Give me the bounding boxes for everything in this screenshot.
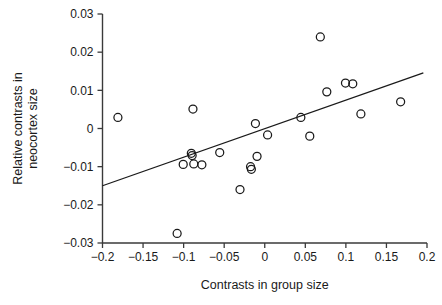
y-tick-label: 0.01: [70, 84, 94, 98]
data-point-marker: [264, 131, 272, 139]
y-tick-label: −0.02: [63, 198, 94, 212]
x-tick-label: −0.05: [209, 250, 240, 264]
data-point-marker: [216, 149, 224, 157]
regression-line: [103, 73, 424, 186]
chart-canvas: 0.030.020.010−0.01−0.02−0.03−0.2−0.15−0.…: [0, 0, 442, 305]
y-tick-label: 0: [87, 122, 94, 136]
data-point-marker: [357, 110, 365, 118]
y-tick-label: −0.01: [63, 160, 94, 174]
x-tick-label: −0.2: [91, 250, 115, 264]
x-tick-label: 0.1: [338, 250, 355, 264]
data-point-marker: [397, 98, 405, 106]
y-tick-label: −0.03: [63, 236, 94, 250]
y-axis-title-line-2: neocortex size: [26, 88, 40, 169]
x-tick-label: 0.2: [419, 250, 436, 264]
data-point-marker: [198, 161, 206, 169]
data-point-marker: [179, 160, 187, 168]
y-tick-label: 0.03: [70, 7, 94, 21]
x-axis-title: Contrasts in group size: [201, 278, 329, 292]
x-tick-label: 0: [261, 250, 268, 264]
data-point-marker: [316, 33, 324, 41]
data-point-marker: [306, 132, 314, 140]
x-tick-label: 0.05: [294, 250, 318, 264]
data-point-marker: [251, 120, 259, 128]
data-point-marker: [323, 88, 331, 96]
x-tick-label: −0.1: [172, 250, 196, 264]
data-point-marker: [190, 160, 198, 168]
data-point-marker: [114, 113, 122, 121]
x-tick-label: 0.15: [375, 250, 399, 264]
data-point-marker: [253, 152, 261, 160]
data-point-marker: [236, 186, 244, 194]
scatter-plot-figure: 0.030.020.010−0.01−0.02−0.03−0.2−0.15−0.…: [0, 0, 442, 305]
data-point-marker: [173, 229, 181, 237]
x-tick-label: −0.15: [128, 250, 159, 264]
y-tick-label: 0.02: [70, 45, 94, 59]
data-point-marker: [189, 105, 197, 113]
y-axis-title-line-1: Relative contrasts in: [11, 72, 25, 185]
